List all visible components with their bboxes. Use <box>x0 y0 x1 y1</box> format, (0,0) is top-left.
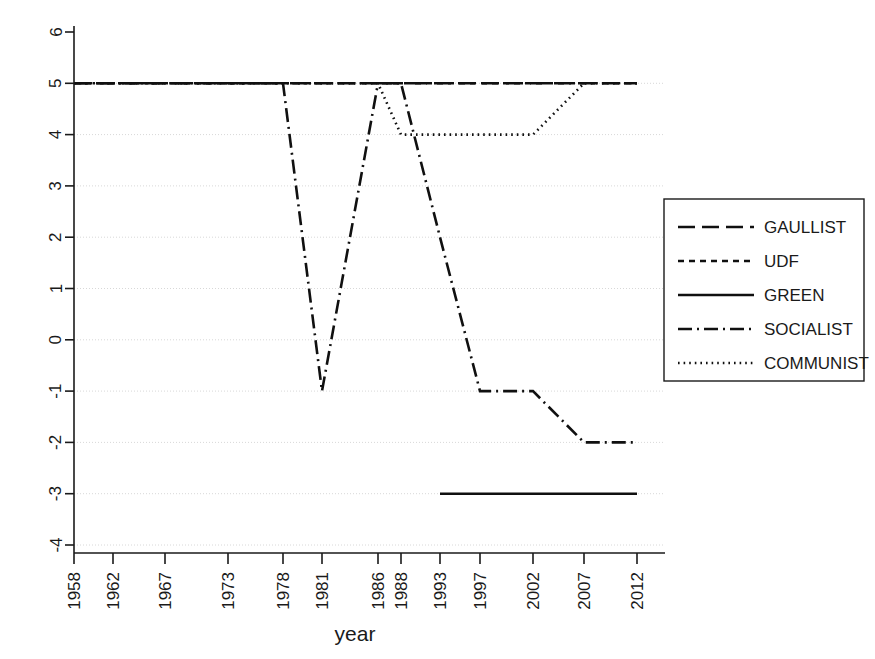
y-axis-tick-label: 1 <box>47 284 66 293</box>
x-axis-tick-label: 2012 <box>628 572 647 610</box>
y-axis-tick-label: 6 <box>47 27 66 36</box>
legend-label-green: GREEN <box>764 286 824 305</box>
y-axis-tick-label: 4 <box>47 130 66 139</box>
y-axis-tick-label: -2 <box>47 435 66 450</box>
x-axis-tick-label: 1973 <box>219 572 238 610</box>
y-axis-tick-label: -4 <box>47 537 66 552</box>
y-axis-tick-label: -3 <box>47 486 66 501</box>
gridlines <box>74 83 665 545</box>
line-chart: 6543210-1-2-3-4 195819621967197319781981… <box>0 0 875 659</box>
legend-label-communist: COMMUNIST <box>764 354 869 373</box>
legend-label-udf: UDF <box>764 252 799 271</box>
x-axis-tick-label: 1981 <box>313 572 332 610</box>
x-axis: 1958196219671973197819811986198819931997… <box>65 553 666 610</box>
x-axis-tick-label: 1997 <box>471 572 490 610</box>
series-line-communist <box>74 83 637 134</box>
x-axis-tick-label: 1986 <box>369 572 388 610</box>
chart-container: 6543210-1-2-3-4 195819621967197319781981… <box>0 0 875 659</box>
x-axis-tick-label: 1962 <box>104 572 123 610</box>
x-axis-tick-label: 1967 <box>156 572 175 610</box>
x-axis-tick-label: 2007 <box>575 572 594 610</box>
y-axis: 6543210-1-2-3-4 <box>47 26 75 553</box>
y-axis-tick-label: 0 <box>47 335 66 344</box>
x-axis-tick-label: 1988 <box>392 572 411 610</box>
chart-legend: GAULLISTUDFGREENSOCIALISTCOMMUNIST <box>664 199 869 381</box>
y-axis-tick-label: 2 <box>47 232 66 241</box>
y-axis-tick-label: 3 <box>47 181 66 190</box>
legend-label-socialist: SOCIALIST <box>764 320 853 339</box>
y-axis-tick-label: 5 <box>47 79 66 88</box>
y-axis-tick-label: -1 <box>47 384 66 399</box>
x-axis-tick-label: 1993 <box>431 572 450 610</box>
x-axis-title: year <box>335 622 376 645</box>
legend-label-gaullist: GAULLIST <box>764 218 846 237</box>
x-axis-tick-label: 1958 <box>65 572 84 610</box>
x-axis-tick-label: 2002 <box>524 572 543 610</box>
x-axis-tick-label: 1978 <box>274 572 293 610</box>
series-line-socialist <box>74 83 637 442</box>
